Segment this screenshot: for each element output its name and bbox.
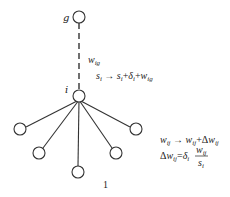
- delta-w-equation: Δwij=δi wij si: [160, 144, 208, 170]
- child-node-1: [14, 123, 26, 135]
- child-node-5: [130, 123, 142, 135]
- node-g-label: g: [63, 12, 69, 23]
- tree-diagram: g i wig si → si+δi+wig wij → wij+Δwij Δw…: [0, 0, 230, 197]
- svg-text:si: si: [198, 157, 204, 170]
- svg-text:wij: wij: [196, 144, 207, 157]
- node-g: [73, 11, 85, 23]
- node-i-label: i: [65, 84, 68, 95]
- child-node-3: [72, 166, 84, 178]
- svg-text:Δwij=δi: Δwij=δi: [160, 150, 189, 163]
- s-update-equation: si → si+δi+wig: [96, 70, 153, 83]
- figure-number: 1: [103, 179, 108, 190]
- edge-label-wig: wig: [88, 54, 101, 67]
- node-i: [73, 90, 85, 102]
- child-node-4: [110, 147, 122, 159]
- w-update-equation: wij → wij+Δwij: [160, 134, 219, 147]
- child-node-2: [33, 147, 45, 159]
